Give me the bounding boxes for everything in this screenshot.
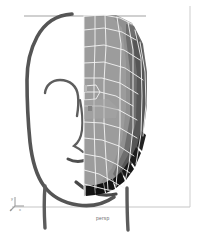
neck-left-line <box>44 186 45 228</box>
axis-x-label: x <box>19 208 21 212</box>
neck-right-line <box>127 188 128 230</box>
axis-z-label: z <box>10 208 12 212</box>
maya-persp-viewport[interactable]: persp y z x <box>0 0 206 235</box>
viewport-name-label: persp <box>96 215 110 221</box>
ear-outline <box>45 80 78 116</box>
mouth-line <box>68 159 86 161</box>
axis-y-label: y <box>11 197 13 201</box>
eye-inner-face <box>84 85 87 92</box>
viewport-canvas[interactable] <box>0 0 206 235</box>
half-face-polygon-mesh[interactable] <box>84 15 147 196</box>
